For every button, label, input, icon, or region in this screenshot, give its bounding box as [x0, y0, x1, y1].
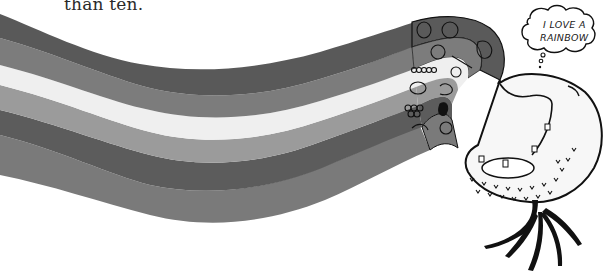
thought-bubble: I LOVE A RAINBOW [522, 6, 595, 69]
thought-dot [539, 59, 543, 63]
thought-dot [541, 53, 545, 57]
tooth [503, 160, 508, 167]
thought-dot [539, 66, 541, 68]
thought-bubble-line2: RAINBOW [540, 32, 589, 43]
thought-bubble-line1: I LOVE A [543, 19, 586, 30]
tooth [532, 146, 537, 152]
tooth [545, 124, 550, 130]
vegetable-character [466, 74, 602, 271]
rainbow-illustration: I LOVE A RAINBOW [0, 0, 613, 271]
tooth [479, 156, 484, 162]
roots [484, 200, 582, 271]
character-body [466, 74, 602, 202]
eggplant-icon [439, 103, 448, 116]
